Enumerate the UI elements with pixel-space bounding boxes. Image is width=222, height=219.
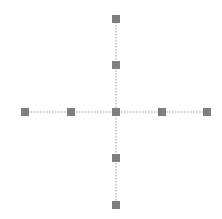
diagram-canvas xyxy=(0,0,222,219)
node-top-far[interactable] xyxy=(112,15,120,23)
node-bottom-near[interactable] xyxy=(112,154,120,162)
node-left-far[interactable] xyxy=(21,108,29,116)
node-top-near[interactable] xyxy=(112,61,120,69)
node-left-near[interactable] xyxy=(67,108,75,116)
node-right-near[interactable] xyxy=(158,108,166,116)
node-right-far[interactable] xyxy=(203,108,211,116)
node-bottom-far[interactable] xyxy=(112,201,120,209)
node-center[interactable] xyxy=(112,108,120,116)
